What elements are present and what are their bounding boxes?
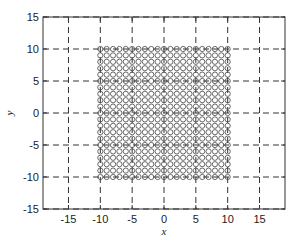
data-point (174, 162, 179, 167)
data-point (136, 85, 141, 90)
x-tick-label: 5 (193, 213, 199, 225)
x-tick-label: 15 (253, 213, 265, 225)
data-point (174, 123, 179, 128)
data-point (200, 72, 205, 77)
data-point (212, 91, 217, 96)
data-point (174, 130, 179, 135)
data-point (212, 85, 217, 90)
data-point (174, 98, 179, 103)
data-point (181, 149, 186, 154)
data-point (149, 130, 154, 135)
y-tick-label: 5 (33, 75, 39, 87)
data-point (117, 136, 122, 141)
data-point (206, 162, 211, 167)
data-point (200, 59, 205, 64)
data-point (181, 155, 186, 160)
data-point (174, 104, 179, 109)
data-point (136, 117, 141, 122)
data-point (187, 168, 192, 173)
data-point (168, 117, 173, 122)
data-point (110, 98, 115, 103)
data-point (110, 66, 115, 71)
data-point (155, 117, 160, 122)
data-point (168, 72, 173, 77)
data-point (168, 53, 173, 58)
data-point (212, 155, 217, 160)
data-point (104, 72, 109, 77)
data-point (168, 136, 173, 141)
data-point (104, 66, 109, 71)
data-point (110, 91, 115, 96)
data-point (155, 91, 160, 96)
data-point (104, 168, 109, 173)
data-point (168, 59, 173, 64)
data-point (142, 149, 147, 154)
data-point (142, 91, 147, 96)
y-tick-label: -10 (23, 171, 39, 183)
data-point (110, 130, 115, 135)
data-point (181, 136, 186, 141)
data-point (136, 155, 141, 160)
data-point (117, 104, 122, 109)
data-point (174, 85, 179, 90)
data-point (117, 117, 122, 122)
data-point (212, 149, 217, 154)
data-point (219, 72, 224, 77)
data-point (206, 117, 211, 122)
data-point (136, 162, 141, 167)
data-point (117, 155, 122, 160)
data-point (200, 53, 205, 58)
data-point (206, 91, 211, 96)
data-point (206, 85, 211, 90)
data-point (110, 104, 115, 109)
data-point (149, 168, 154, 173)
data-point (142, 104, 147, 109)
data-point (142, 162, 147, 167)
data-point (212, 136, 217, 141)
data-point (104, 53, 109, 58)
data-point (181, 59, 186, 64)
data-point (200, 66, 205, 71)
data-point (110, 168, 115, 173)
data-point (174, 155, 179, 160)
data-point (104, 85, 109, 90)
data-point (136, 98, 141, 103)
data-point (142, 136, 147, 141)
data-point (212, 104, 217, 109)
data-point (110, 136, 115, 141)
data-point (181, 168, 186, 173)
data-point (181, 123, 186, 128)
data-point (104, 98, 109, 103)
x-tick-label: -10 (92, 213, 108, 225)
data-point (206, 149, 211, 154)
data-point (187, 53, 192, 58)
data-point (136, 130, 141, 135)
data-point (136, 59, 141, 64)
data-point (206, 123, 211, 128)
data-point (104, 136, 109, 141)
data-point (104, 149, 109, 154)
data-point (174, 72, 179, 77)
data-point (142, 130, 147, 135)
data-point (155, 59, 160, 64)
data-point (123, 168, 128, 173)
data-point (136, 149, 141, 154)
data-point (149, 136, 154, 141)
data-point (219, 136, 224, 141)
data-point (181, 91, 186, 96)
data-point (212, 98, 217, 103)
data-point (155, 149, 160, 154)
data-point (136, 136, 141, 141)
data-point (117, 91, 122, 96)
data-point (181, 85, 186, 90)
data-point (187, 104, 192, 109)
data-point (187, 162, 192, 167)
data-point (104, 162, 109, 167)
data-point (212, 123, 217, 128)
data-point (206, 72, 211, 77)
data-point (181, 53, 186, 58)
data-point (200, 98, 205, 103)
data-point (155, 66, 160, 71)
data-point (136, 72, 141, 77)
data-point (200, 104, 205, 109)
